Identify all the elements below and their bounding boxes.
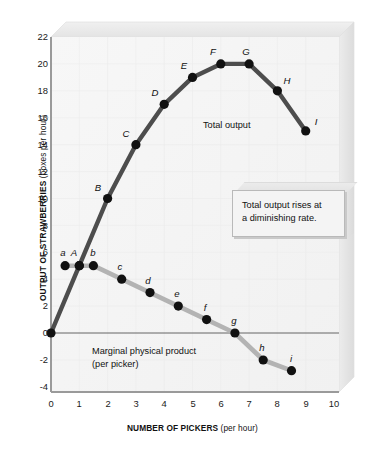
chart-figure: 22 20 18 16 14 12 10 8 6 4 2 0 -2 -4 0 1… bbox=[0, 0, 371, 453]
point-label-g: g bbox=[231, 315, 236, 326]
point-label-A: A bbox=[71, 247, 77, 258]
x-tick-10: 10 bbox=[322, 398, 346, 409]
x-tick-5: 5 bbox=[181, 398, 205, 409]
point-label-f: f bbox=[204, 302, 207, 313]
point-label-B: B bbox=[95, 182, 101, 193]
point-label-F: F bbox=[210, 46, 216, 57]
y-axis-title-sub: (boxes per hour) bbox=[38, 115, 48, 181]
x-tick-9: 9 bbox=[294, 398, 318, 409]
mpp-annotation: Marginal physical product (per picker) bbox=[92, 345, 196, 370]
callout-box: Total output rises at a diminishing rate… bbox=[232, 190, 345, 237]
point-label-G: G bbox=[242, 46, 249, 57]
point-label-I: I bbox=[315, 116, 318, 127]
y-axis-title: OUTPUT OF STRAWBERRIES (boxes per hour) bbox=[38, 58, 48, 358]
y-axis-title-main: OUTPUT OF STRAWBERRIES bbox=[38, 181, 48, 301]
x-axis-title-main: NUMBER OF PICKERS bbox=[127, 423, 218, 433]
point-label-d: d bbox=[145, 275, 150, 286]
total-output-annotation: Total output bbox=[203, 119, 251, 132]
point-label-D: D bbox=[152, 87, 159, 98]
x-tick-4: 4 bbox=[152, 398, 176, 409]
x-tick-7: 7 bbox=[237, 398, 261, 409]
point-label-a: a bbox=[60, 247, 65, 258]
x-tick-3: 3 bbox=[124, 398, 148, 409]
point-label-e: e bbox=[174, 288, 179, 299]
point-label-b: b bbox=[90, 247, 95, 258]
point-label-h: h bbox=[259, 342, 264, 353]
x-axis-title-sub: (per hour) bbox=[218, 423, 258, 433]
x-tick-6: 6 bbox=[209, 398, 233, 409]
x-axis-title: NUMBER OF PICKERS (per hour) bbox=[51, 423, 334, 433]
callout-line-1: Total output rises at bbox=[242, 199, 344, 212]
callout-side-bevel bbox=[345, 186, 354, 241]
point-label-i: i bbox=[290, 353, 292, 364]
callout-line-2: a diminishing rate. bbox=[242, 212, 344, 225]
point-label-c: c bbox=[118, 261, 123, 272]
point-label-C: C bbox=[123, 128, 130, 139]
x-tick-0: 0 bbox=[39, 398, 63, 409]
x-tick-8: 8 bbox=[265, 398, 289, 409]
x-tick-2: 2 bbox=[96, 398, 120, 409]
point-label-E: E bbox=[181, 60, 187, 71]
point-label-H: H bbox=[284, 75, 291, 86]
x-tick-1: 1 bbox=[67, 398, 91, 409]
